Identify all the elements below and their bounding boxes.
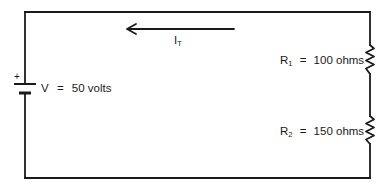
battery-symbol: V xyxy=(41,82,49,94)
r2-subscript: 2 xyxy=(288,130,292,139)
current-arrow-icon xyxy=(127,24,234,34)
r1-equals: = xyxy=(300,54,307,66)
r1-subscript: 1 xyxy=(288,59,292,68)
r1-value: 100 ohms xyxy=(314,54,365,66)
current-subscript: T xyxy=(177,39,182,48)
battery-label: V = 50 volts xyxy=(41,83,111,95)
r2-equals: = xyxy=(300,125,307,137)
resistor-r1-label: R1 = 100 ohms xyxy=(280,55,364,68)
r2-value: 150 ohms xyxy=(314,125,365,137)
resistor-r2-label: R2 = 150 ohms xyxy=(280,126,364,139)
battery-icon xyxy=(14,84,36,93)
resistor-r2-icon xyxy=(366,116,374,144)
current-label: IT xyxy=(174,35,182,48)
battery-value: 50 volts xyxy=(72,82,112,94)
battery-polarity-label: + xyxy=(14,72,20,82)
battery-equals: = xyxy=(57,82,64,94)
resistor-r1-icon xyxy=(366,45,374,74)
